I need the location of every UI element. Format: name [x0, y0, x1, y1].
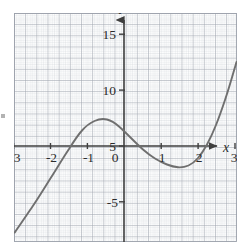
plot-area: 15 10 5 -5 -10 -3 -2 -1 0 1 2 3 x y — [14, 13, 237, 242]
x-axis-label: x — [222, 140, 230, 155]
grid-lines — [14, 13, 237, 242]
x-tick-label-minus1: -1 — [83, 150, 94, 165]
y-tick-label-10: 10 — [103, 83, 117, 98]
graph-figure: 15 10 5 -5 -10 -3 -2 -1 0 1 2 3 x y — [0, 0, 245, 245]
y-axis-label: y — [118, 13, 127, 14]
x-tick-label-0: 0 — [112, 150, 119, 165]
x-tick-label-minus2: -2 — [46, 150, 57, 165]
x-tick-label-minus3: -3 — [14, 150, 21, 165]
x-tick-label-3: 3 — [231, 150, 237, 165]
y-tick-label-15: 15 — [103, 27, 117, 42]
x-tick-label-1: 1 — [159, 150, 166, 165]
x-tick-label-2: 2 — [196, 150, 203, 165]
y-tick-label-minus5: -5 — [107, 195, 118, 210]
edge-artifact-mark — [1, 114, 5, 118]
graph-svg: 15 10 5 -5 -10 -3 -2 -1 0 1 2 3 x y — [14, 13, 237, 242]
